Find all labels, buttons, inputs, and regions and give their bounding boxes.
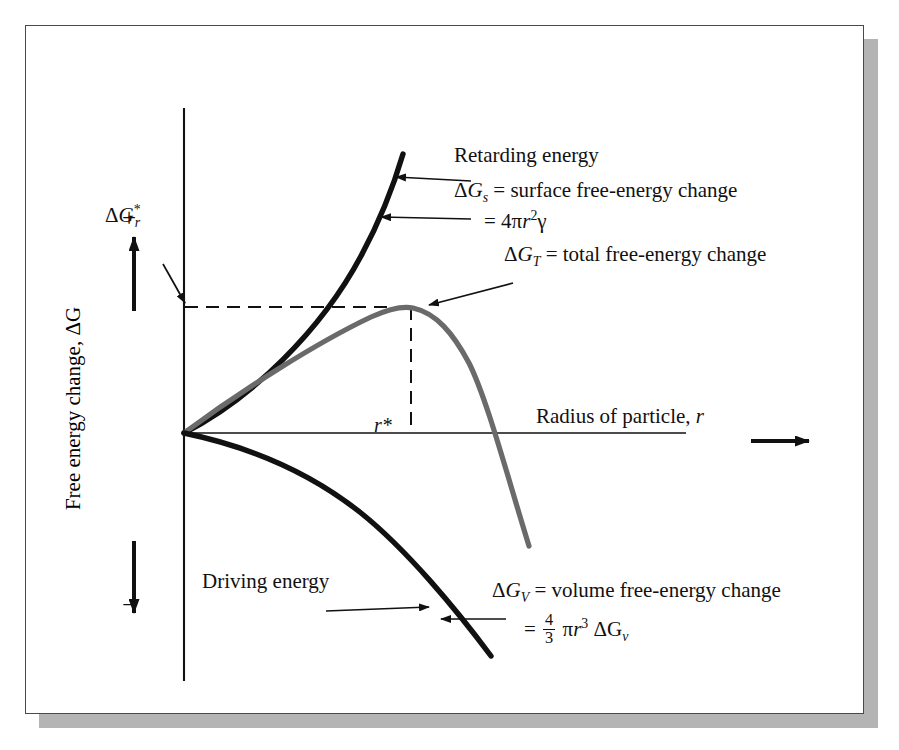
y-axis-label: Free energy change, ΔG bbox=[61, 244, 86, 574]
volume-free-energy-line1: ΔGV = volume free-energy change bbox=[492, 578, 781, 606]
critical-radius-tick-label: r* bbox=[374, 414, 392, 437]
volume-fraction-numerator: 4 bbox=[543, 612, 555, 629]
surface-line1-text: = surface free-energy change bbox=[488, 178, 737, 202]
surface-pi: π bbox=[512, 209, 523, 233]
surface-gamma: γ bbox=[537, 209, 546, 233]
volume-free-energy-label: ΔGV = volume free-energy change = 4 3 πr… bbox=[492, 578, 781, 647]
x-axis-label-symbol: r bbox=[696, 404, 704, 428]
volume-free-energy-line2: = 4 3 πr3 ΔGv bbox=[524, 612, 781, 647]
curve-volume-free-energy bbox=[184, 433, 491, 656]
retarding-energy-label: Retarding energy bbox=[454, 143, 599, 167]
y-axis-label-text: Free energy change, ΔG bbox=[61, 307, 85, 510]
figure-drop-shadow-right bbox=[864, 39, 878, 728]
surface-free-energy-line2: = 4πr2γ bbox=[484, 208, 737, 233]
volume-subscript: V bbox=[521, 590, 529, 605]
total-line1-text: = total free-energy change bbox=[540, 242, 766, 266]
critical-radius-tick-text: r* bbox=[374, 414, 392, 436]
leader-critical-energy bbox=[163, 264, 185, 303]
y-axis-negative-sign: − bbox=[122, 591, 136, 620]
figure-drop-shadow-bottom bbox=[39, 714, 878, 728]
figure-frame: + − Free energy change, ΔG Radius of par… bbox=[25, 25, 864, 714]
critical-energy-label: ΔG*r bbox=[105, 202, 140, 231]
volume-exponent: 3 bbox=[581, 616, 588, 631]
figure-root: + − Free energy change, ΔG Radius of par… bbox=[0, 0, 899, 750]
volume-fraction-denominator: 3 bbox=[543, 629, 555, 647]
total-free-energy-label: ΔGT = total free-energy change bbox=[504, 242, 766, 270]
volume-delta-g: ΔG bbox=[594, 617, 623, 641]
curve-surface-free-energy bbox=[184, 154, 403, 433]
leader-total-free-energy bbox=[429, 283, 513, 305]
volume-pi: π bbox=[563, 617, 574, 641]
volume-eq: = bbox=[524, 617, 536, 641]
volume-delta-subscript: v bbox=[622, 629, 628, 644]
driving-energy-label: Driving energy bbox=[202, 569, 329, 593]
x-axis-label: Radius of particle, r bbox=[536, 404, 704, 428]
surface-eq: = 4 bbox=[484, 209, 512, 233]
surface-free-energy-label: ΔGs = surface free-energy change = 4πr2γ bbox=[454, 178, 737, 233]
surface-free-energy-line1: ΔGs = surface free-energy change bbox=[454, 178, 737, 206]
volume-fraction: 4 3 bbox=[543, 612, 555, 647]
leader-driving-energy bbox=[326, 607, 429, 611]
x-axis-label-text: Radius of particle, bbox=[536, 404, 696, 428]
volume-line1-text: = volume free-energy change bbox=[529, 578, 781, 602]
